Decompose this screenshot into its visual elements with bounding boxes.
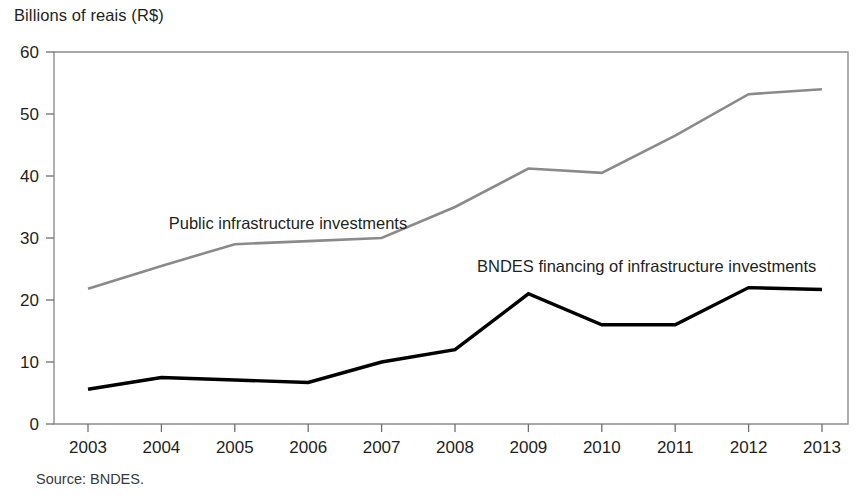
plot-frame xyxy=(54,52,848,424)
y-tick-label: 20 xyxy=(20,291,39,310)
x-tick-label: 2009 xyxy=(509,438,547,457)
x-tick-label: 2006 xyxy=(289,438,327,457)
source-note: Source: BNDES. xyxy=(36,471,144,487)
series-lines xyxy=(88,89,822,389)
line-chart: 0102030405060 20032004200520062007200820… xyxy=(0,0,866,501)
x-axis-tick-labels: 2003200420052006200720082009201020112012… xyxy=(69,438,841,457)
x-tick-label: 2011 xyxy=(657,438,694,457)
y-tick-label: 50 xyxy=(20,105,39,124)
x-tick-label: 2004 xyxy=(142,438,180,457)
series-line-bndes-financing xyxy=(88,288,822,390)
x-tick-label: 2010 xyxy=(583,438,621,457)
x-tick-label: 2007 xyxy=(363,438,401,457)
y-tick-label: 40 xyxy=(20,167,39,186)
y-axis-tick-labels: 0102030405060 xyxy=(20,43,39,434)
series-annotation-bndes-financing: BNDES financing of infrastructure invest… xyxy=(477,257,816,275)
figure-container: Billions of reais (R$) 0102030405060 200… xyxy=(0,0,866,501)
x-tick-label: 2003 xyxy=(69,438,107,457)
x-tick-label: 2008 xyxy=(436,438,474,457)
series-annotations: Public infrastructure investmentsBNDES f… xyxy=(169,214,817,275)
x-tick-label: 2013 xyxy=(803,438,841,457)
y-tick-label: 0 xyxy=(30,415,39,434)
y-tick-label: 60 xyxy=(20,43,39,62)
y-tick-label: 30 xyxy=(20,229,39,248)
axis-ticks xyxy=(46,52,822,432)
x-tick-label: 2012 xyxy=(730,438,768,457)
x-tick-label: 2005 xyxy=(216,438,254,457)
y-tick-label: 10 xyxy=(20,353,39,372)
series-annotation-public-infrastructure: Public infrastructure investments xyxy=(169,214,407,232)
